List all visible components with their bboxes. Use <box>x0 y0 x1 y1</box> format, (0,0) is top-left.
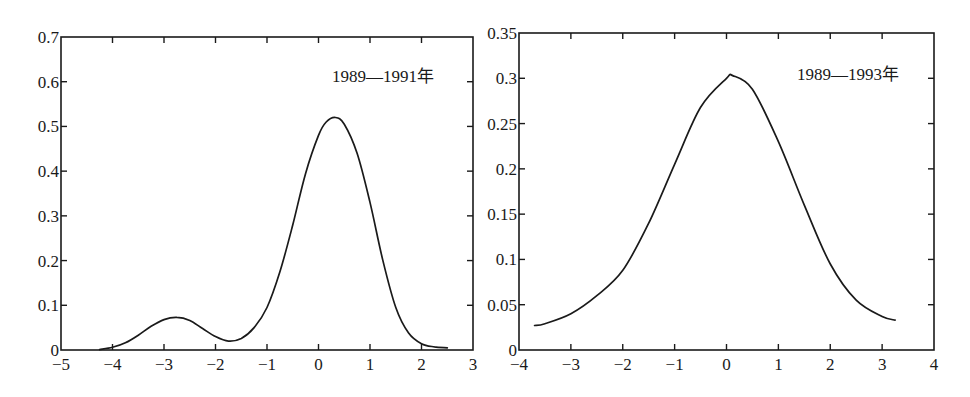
x-tick-label: 3 <box>878 355 887 374</box>
y-tick-label: 0.35 <box>487 24 517 43</box>
x-tick-label: −3 <box>562 355 580 374</box>
x-tick-label: 4 <box>930 355 939 374</box>
y-tick-label: 0.1 <box>496 250 517 269</box>
x-tick-label: 1 <box>366 355 375 374</box>
x-tick-label: 0 <box>314 355 323 374</box>
x-tick-label: −1 <box>258 355 276 374</box>
y-tick-label: 0 <box>51 341 60 360</box>
x-tick-label: 2 <box>417 355 426 374</box>
kde-chart-1989-1993: −4−3−2−101234 00.050.10.150.20.250.30.35… <box>487 24 939 374</box>
chart-canvas: −5−4−3−2−10123 00.10.20.30.40.50.60.7 19… <box>0 0 970 397</box>
y-tick-label: 0.05 <box>487 296 517 315</box>
y-tick-label: 0.3 <box>496 69 517 88</box>
y-tick-label: 0.15 <box>487 205 517 224</box>
x-tick-label: −2 <box>614 355 632 374</box>
kde-chart-1989-1991: −5−4−3−2−10123 00.10.20.30.40.50.60.7 19… <box>38 28 478 374</box>
x-tick-label: −2 <box>206 355 224 374</box>
period-annotation: 1989—1991年 <box>332 67 434 86</box>
x-tick-label: −4 <box>103 355 122 374</box>
y-tick-label: 0.3 <box>38 207 59 226</box>
period-annotation: 1989—1993年 <box>797 65 899 84</box>
x-tick-label: 1 <box>774 355 783 374</box>
density-curve <box>535 74 896 325</box>
x-tick-label: −1 <box>666 355 684 374</box>
y-tick-label: 0.6 <box>38 73 59 92</box>
y-tick-label: 0.5 <box>38 117 59 136</box>
x-tick-label: −3 <box>155 355 173 374</box>
y-tick-label: 0.2 <box>496 160 517 179</box>
x-tick-label: 3 <box>469 355 478 374</box>
x-tick-label: 2 <box>826 355 835 374</box>
y-tick-label: 0 <box>509 341 518 360</box>
y-tick-label: 0.25 <box>487 115 517 134</box>
x-axis-ticks: −5−4−3−2−10123 <box>52 37 477 374</box>
x-axis-ticks: −4−3−2−101234 <box>510 33 939 374</box>
y-tick-label: 0.4 <box>38 162 60 181</box>
y-tick-label: 0.1 <box>38 296 59 315</box>
x-tick-label: 0 <box>722 355 731 374</box>
density-curve <box>100 117 448 349</box>
y-tick-label: 0.7 <box>38 28 60 47</box>
y-tick-label: 0.2 <box>38 252 59 271</box>
